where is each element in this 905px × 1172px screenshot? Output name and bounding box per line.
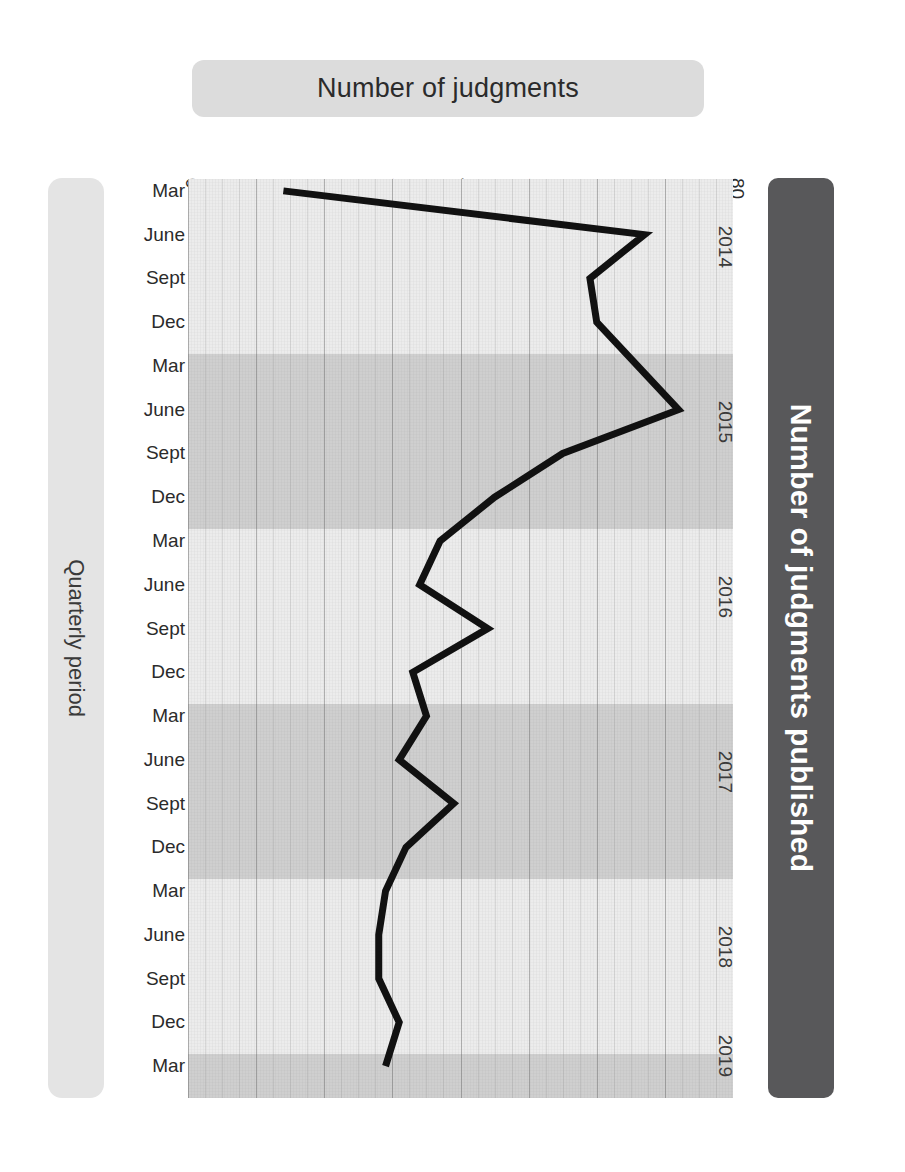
x-axis-label-panel: Number of judgments published (768, 178, 834, 1098)
data-line (188, 179, 733, 1098)
y-axis-label-banner: Quarterly period (48, 178, 104, 1098)
y-axis-label: Quarterly period (63, 559, 89, 717)
plot-area: 201420152016201720182019 (188, 179, 733, 1098)
chart-title: Number of judgments (317, 73, 579, 104)
x-axis-label: Number of judgments published (784, 404, 818, 873)
chart-title-banner: Number of judgments (192, 60, 704, 117)
